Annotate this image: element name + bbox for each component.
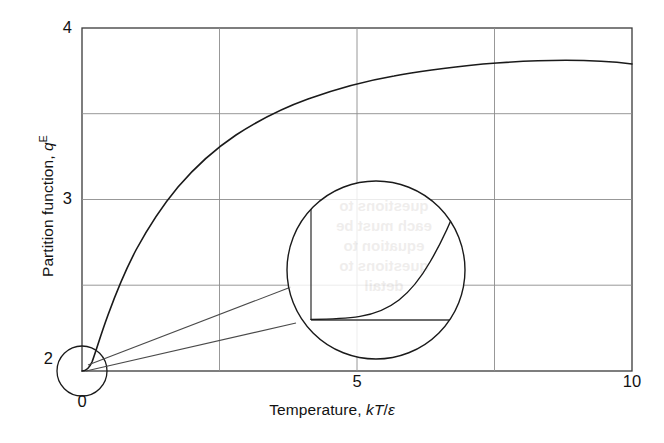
x-tick-label-5: 5 [337,372,377,391]
y-axis-symbol-q: q [39,142,56,151]
x-axis-symbol-kt: kT [366,401,383,418]
x-axis-symbol-epsilon: ε [388,401,395,418]
x-axis-title: Temperature, kT/ε [0,401,664,419]
x-axis-title-prefix: Temperature, [269,401,366,418]
x-tick-label-10: 10 [612,372,652,391]
y-tick-label-4: 4 [46,18,72,37]
y-axis-title: Partition function, qE [37,41,57,371]
partition-function-chart [0,0,664,443]
y-axis-title-prefix: Partition function, [39,151,56,277]
y-axis-superscript-e: E [37,135,49,142]
